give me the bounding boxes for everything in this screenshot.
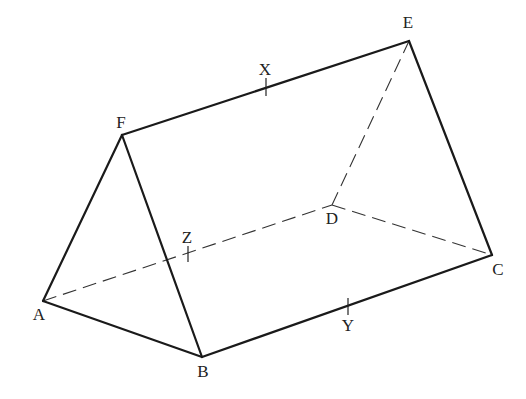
edge-AF (43, 135, 122, 301)
label-E: E (403, 13, 413, 32)
label-X: X (259, 60, 271, 79)
edge-DE-hidden (332, 41, 409, 205)
label-Y: Y (342, 316, 354, 335)
label-Z: Z (182, 228, 192, 247)
prism-diagram: A B C D E F X Y Z (0, 0, 526, 399)
label-B: B (197, 362, 208, 381)
edge-DC-hidden (332, 205, 492, 255)
edge-CE (409, 41, 492, 255)
label-C: C (492, 260, 503, 279)
label-D: D (326, 209, 338, 228)
label-F: F (116, 113, 125, 132)
label-A: A (33, 305, 46, 324)
edge-BC (202, 255, 492, 357)
edge-AB (43, 301, 202, 357)
